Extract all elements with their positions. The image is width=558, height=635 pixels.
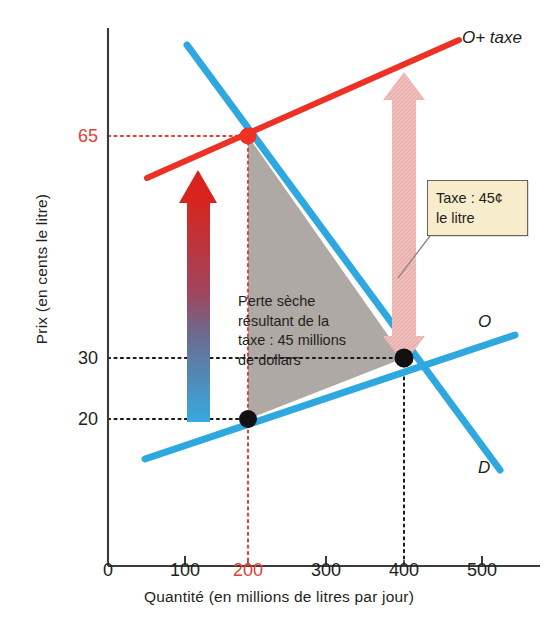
- point-equilibrium-with-tax: [240, 128, 257, 145]
- curve-label-d: D: [478, 458, 490, 478]
- x-axis-title: Quantité (en millions de litres par jour…: [0, 588, 558, 606]
- x-tick-label-100: 100: [162, 560, 208, 581]
- curve-label-o: O: [478, 312, 491, 332]
- x-tick-label-300: 300: [303, 560, 349, 581]
- x-tick-label-200: 200: [225, 560, 271, 581]
- deadweight-line-3: taxe : 45 millions: [238, 331, 386, 351]
- deadweight-line-4: de dollars: [238, 351, 386, 371]
- deadweight-loss-annotation: Perte sèche résultant de la taxe : 45 mi…: [238, 292, 386, 370]
- x-tick-label-0: 0: [85, 560, 131, 581]
- y-tick-label-20: 20: [52, 409, 98, 430]
- x-tick-label-500: 500: [459, 560, 505, 581]
- deadweight-line-1: Perte sèche: [238, 292, 386, 312]
- point-sellers-price: [239, 410, 257, 428]
- tax-callout-line-2: le litre: [436, 208, 528, 228]
- tax-callout-line-1: Taxe : 45¢: [436, 188, 528, 208]
- point-equilibrium-no-tax: [395, 349, 414, 368]
- price-increase-arrow: [179, 170, 217, 422]
- tax-callout-box: Taxe : 45¢ le litre: [427, 180, 528, 236]
- x-tick-label-400: 400: [381, 560, 427, 581]
- y-tick-label-65: 65: [52, 126, 98, 147]
- tax-callout-text: Taxe : 45¢ le litre: [436, 188, 528, 228]
- curve-label-o-plus-taxe: O+ taxe: [462, 28, 522, 48]
- y-tick-label-30: 30: [52, 348, 98, 369]
- tax-deadweight-loss-chart: Prix (en cents le litre) Quantité (en mi…: [0, 0, 558, 635]
- y-axis-title: Prix (en cents le litre): [33, 159, 51, 379]
- demand-curve-D: [187, 45, 500, 470]
- deadweight-line-2: résultant de la: [238, 312, 386, 332]
